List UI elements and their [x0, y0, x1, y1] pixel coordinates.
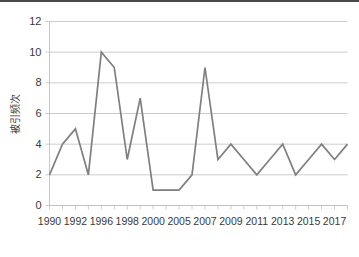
x-tick-label-1998: 1998 — [116, 215, 140, 227]
x-tick-label-2011: 2011 — [246, 215, 269, 227]
x-tick-label-2009: 2009 — [219, 215, 243, 227]
x-tick-label-2007: 2007 — [193, 215, 217, 227]
x-tick-label-2005: 2005 — [167, 215, 191, 227]
y-tick-label-0: 0 — [35, 199, 41, 211]
x-tick-label-1996: 1996 — [90, 215, 114, 227]
x-tick-label-2017: 2017 — [323, 215, 347, 227]
line-chart: 024681012 199019921996199820002005200720… — [0, 0, 359, 257]
y-tick-label-6: 6 — [35, 107, 41, 119]
series-line-citation-frequency — [50, 52, 348, 190]
chart-canvas: 024681012 199019921996199820002005200720… — [0, 0, 359, 257]
y-axis-title: 被引频次 — [9, 94, 21, 134]
y-tick-label-12: 12 — [29, 15, 41, 27]
x-tick-label-2013: 2013 — [271, 215, 295, 227]
x-axis-tick-labels: 1990199219961998200020052007200920112013… — [38, 215, 347, 227]
data-series-line — [50, 52, 348, 190]
y-tick-label-4: 4 — [35, 138, 41, 150]
y-axis-title-text: 被引频次 — [9, 94, 21, 134]
y-tick-label-10: 10 — [29, 46, 41, 58]
x-tick-label-2015: 2015 — [297, 215, 321, 227]
y-axis-tick-labels: 024681012 — [29, 15, 49, 211]
y-tick-label-8: 8 — [35, 76, 41, 88]
y-tick-label-2: 2 — [35, 168, 41, 180]
x-tick-label-1990: 1990 — [38, 215, 62, 227]
x-tick-label-2000: 2000 — [141, 215, 165, 227]
x-axis-tick-marks — [50, 206, 348, 210]
x-tick-label-1992: 1992 — [64, 215, 88, 227]
